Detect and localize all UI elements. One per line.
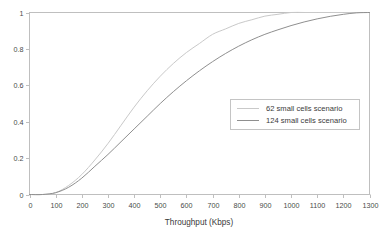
y-tick-label: 0.6: [14, 81, 24, 90]
x-tick-label: 500: [155, 201, 167, 210]
x-axis-tick-labels: 0100200300400500600700800900100011001200…: [29, 201, 379, 210]
x-tick-label: 0: [29, 201, 33, 210]
y-tick-label: 1: [20, 9, 24, 18]
x-tick-label: 1100: [310, 201, 325, 210]
x-tick-label: 600: [181, 201, 193, 210]
y-tick-label: 0.4: [14, 118, 24, 127]
x-axis-ticks: [31, 195, 371, 199]
x-tick-label: 1000: [284, 201, 300, 210]
x-tick-label: 200: [77, 201, 89, 210]
y-tick-label: 0.8: [14, 45, 24, 54]
y-axis-tick-labels: 00.20.40.60.81: [14, 9, 24, 200]
cdf-chart: 0100200300400500600700800900100011001200…: [0, 0, 389, 237]
y-tick-label: 0: [20, 191, 24, 200]
y-tick-label: 0.2: [14, 154, 24, 163]
x-tick-label: 900: [260, 201, 272, 210]
legend-label-124-cells: 124 small cells scenario: [266, 116, 347, 125]
y-axis-ticks: [26, 14, 30, 196]
x-tick-label: 300: [103, 201, 115, 210]
x-tick-label: 1300: [363, 201, 379, 210]
x-tick-label: 800: [234, 201, 246, 210]
x-tick-label: 100: [51, 201, 63, 210]
chart-legend: 62 small cells scenario 124 small cells …: [231, 100, 360, 130]
legend-label-62-cells: 62 small cells scenario: [266, 104, 342, 113]
x-tick-label: 1200: [336, 201, 352, 210]
x-tick-label: 700: [208, 201, 220, 210]
chart-canvas: 0100200300400500600700800900100011001200…: [0, 0, 389, 237]
x-tick-label: 400: [129, 201, 141, 210]
x-axis-title: Throughput (Kbps): [165, 218, 234, 227]
